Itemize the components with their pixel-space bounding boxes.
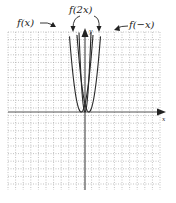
label-x-axis: x [162,116,165,122]
leader-f2x-left-arrow-icon [71,26,76,32]
label-f-x: f(x) [17,18,34,28]
function-graph [0,0,176,203]
leader-fnegx-arrow-icon [114,25,120,31]
leader-fx [40,23,53,25]
y-axis-arrow-icon [82,28,89,37]
leader-fx-arrow-icon [50,22,56,27]
leader-f2x-right-arrow-icon [97,26,102,32]
label-y-axis: y [89,28,92,34]
label-f-neg-x: f(−x) [129,20,155,30]
label-leaders [40,16,128,32]
label-f-2x: f(2x) [69,5,93,15]
